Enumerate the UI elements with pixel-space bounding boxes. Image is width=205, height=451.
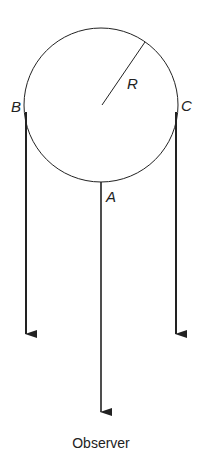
- observer-label: Observer: [72, 435, 130, 451]
- diagram-canvas: R B C A Observer: [0, 0, 205, 451]
- label-r: R: [127, 75, 138, 92]
- label-a: A: [105, 188, 116, 205]
- label-c: C: [181, 97, 192, 114]
- sphere-circle: [24, 28, 178, 182]
- label-b: B: [11, 98, 21, 115]
- radius-line: [102, 42, 145, 105]
